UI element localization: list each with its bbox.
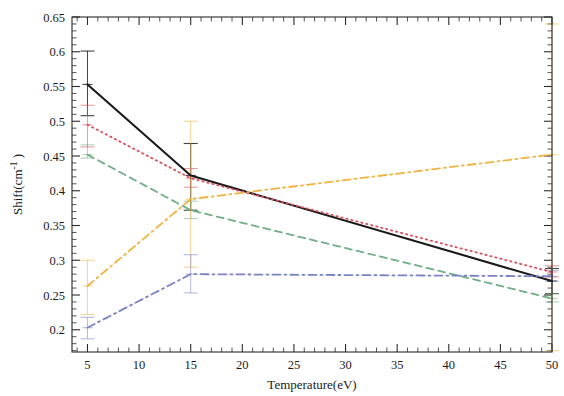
x-tick-label: 20 <box>236 358 249 372</box>
y-tick-label: 0.65 <box>43 11 65 25</box>
x-axis-title: Temperature(eV) <box>267 377 356 392</box>
errorbar <box>80 105 94 147</box>
x-tick-label: 30 <box>339 358 352 372</box>
svg-text:Shift(cm-1 ): Shift(cm-1 ) <box>9 154 25 215</box>
x-tick-label: 45 <box>494 358 507 372</box>
series-blue-dashdot <box>87 274 552 328</box>
x-tick-label: 25 <box>288 358 301 372</box>
y-tick-label: 0.6 <box>49 45 65 59</box>
x-tick-label: 35 <box>391 358 404 372</box>
y-tick-label: 0.2 <box>49 323 65 337</box>
x-tick-label: 50 <box>546 358 559 372</box>
y-tick-label: 0.35 <box>43 219 65 233</box>
series-orange-dashdot <box>87 155 552 286</box>
y-tick-label: 0.55 <box>43 80 65 94</box>
errorbars-group <box>80 24 559 351</box>
y-axis-title: Shift(cm-1 ) <box>9 154 25 215</box>
x-tick-label: 5 <box>84 358 90 372</box>
x-tick-label: 40 <box>443 358 456 372</box>
y-tick-label: 0.45 <box>43 150 65 164</box>
errorbar <box>80 260 94 314</box>
line-chart: 51015202530354045500.20.250.30.350.40.45… <box>0 0 564 396</box>
y-tick-label: 0.4 <box>49 184 65 198</box>
y-tick-label: 0.3 <box>49 254 65 268</box>
chart-page: 51015202530354045500.20.250.30.350.40.45… <box>0 0 564 396</box>
series-lines-group <box>87 84 552 327</box>
x-tick-label: 10 <box>133 358 146 372</box>
y-tick-label: 0.5 <box>49 115 65 129</box>
y-tick-label: 0.25 <box>43 289 65 303</box>
tick-labels-group: 51015202530354045500.20.250.30.350.40.45… <box>43 11 558 373</box>
x-tick-label: 15 <box>184 358 197 372</box>
